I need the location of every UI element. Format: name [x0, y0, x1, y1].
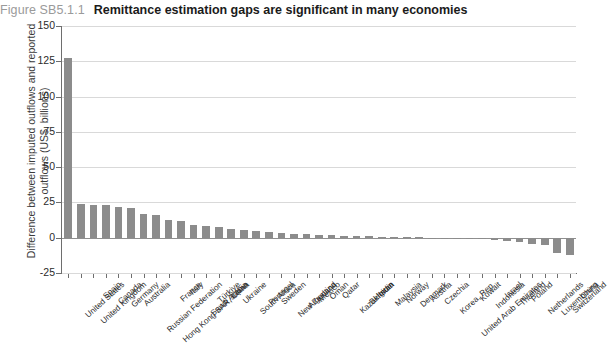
bar: [478, 238, 486, 240]
figure-title: Remittance estimation gaps are significa…: [94, 3, 468, 17]
x-tick: [419, 274, 420, 278]
y-tick-label: 125: [37, 55, 55, 66]
x-tick: [206, 274, 207, 278]
x-tick: [269, 274, 270, 278]
y-tick: [56, 238, 61, 239]
x-tick: [256, 274, 257, 278]
bar: [315, 235, 323, 238]
x-tick: [219, 274, 220, 278]
x-tick: [231, 274, 232, 278]
x-tick: [444, 274, 445, 278]
bar: [403, 237, 411, 238]
bar: [378, 237, 386, 238]
x-tick: [495, 274, 496, 278]
gridline: [62, 97, 576, 98]
bar: [553, 238, 561, 254]
bar: [303, 234, 311, 238]
x-tick: [457, 274, 458, 278]
bar: [503, 238, 511, 241]
x-tick: [557, 274, 558, 278]
bar: [215, 227, 223, 238]
x-tick: [106, 274, 107, 278]
bar: [127, 208, 135, 238]
x-tick: [169, 274, 170, 278]
bar: [491, 238, 499, 240]
x-tick: [344, 274, 345, 278]
y-tick: [56, 132, 61, 133]
gridline: [62, 202, 576, 203]
y-tick-label: 0: [49, 232, 55, 243]
y-tick-label: 100: [37, 91, 55, 102]
y-tick: [56, 273, 61, 274]
x-tick: [469, 274, 470, 278]
gridline: [62, 132, 576, 133]
bar: [415, 237, 423, 238]
y-tick-label: 50: [43, 161, 55, 172]
bar: [77, 204, 85, 238]
x-tick: [394, 274, 395, 278]
bar: [453, 238, 461, 239]
x-tick: [68, 274, 69, 278]
bar: [541, 238, 549, 246]
figure-number: Figure SB5.1.1: [0, 3, 85, 17]
bar: [566, 238, 574, 255]
x-tick: [118, 274, 119, 278]
x-tick: [144, 274, 145, 278]
x-tick-label: India: [377, 280, 396, 299]
x-tick: [369, 274, 370, 278]
x-tick: [244, 274, 245, 278]
y-tick-label: -25: [40, 267, 55, 278]
bar: [102, 205, 110, 238]
gridline: [62, 61, 576, 62]
y-tick: [56, 167, 61, 168]
bar: [252, 231, 260, 238]
x-tick: [357, 274, 358, 278]
bar: [466, 238, 474, 239]
y-tick-label: 150: [37, 20, 55, 31]
x-tick: [281, 274, 282, 278]
x-tick: [93, 274, 94, 278]
x-tick: [482, 274, 483, 278]
bar: [227, 229, 235, 238]
figure-title-bar: Figure SB5.1.1 Remittance estimation gap…: [0, 1, 584, 19]
bar: [190, 225, 198, 237]
x-tick: [319, 274, 320, 278]
x-tick: [507, 274, 508, 278]
bar: [202, 226, 210, 238]
bar: [90, 205, 98, 238]
x-tick: [570, 274, 571, 278]
x-tick: [532, 274, 533, 278]
x-tick: [545, 274, 546, 278]
bar: [140, 214, 148, 237]
bar: [265, 232, 273, 238]
x-tick: [181, 274, 182, 278]
bar: [278, 233, 286, 238]
bar: [353, 236, 361, 238]
x-tick: [332, 274, 333, 278]
x-tick: [407, 274, 408, 278]
gridline: [62, 26, 576, 27]
x-tick: [131, 274, 132, 278]
plot-area: [62, 26, 576, 273]
bar: [428, 238, 436, 239]
x-tick: [194, 274, 195, 278]
bar: [528, 238, 536, 244]
y-tick-label: 25: [43, 196, 55, 207]
bar: [240, 230, 248, 238]
bar: [328, 235, 336, 238]
x-tick: [432, 274, 433, 278]
bar: [290, 234, 298, 238]
x-tick: [81, 274, 82, 278]
bar: [64, 58, 72, 238]
bar: [516, 238, 524, 242]
bar: [340, 236, 348, 238]
y-tick: [56, 26, 61, 27]
y-tick: [56, 202, 61, 203]
x-tick: [156, 274, 157, 278]
y-tick: [56, 61, 61, 62]
x-tick: [307, 274, 308, 278]
bar: [441, 238, 449, 239]
x-tick: [382, 274, 383, 278]
y-tick-label: 75: [43, 126, 55, 137]
